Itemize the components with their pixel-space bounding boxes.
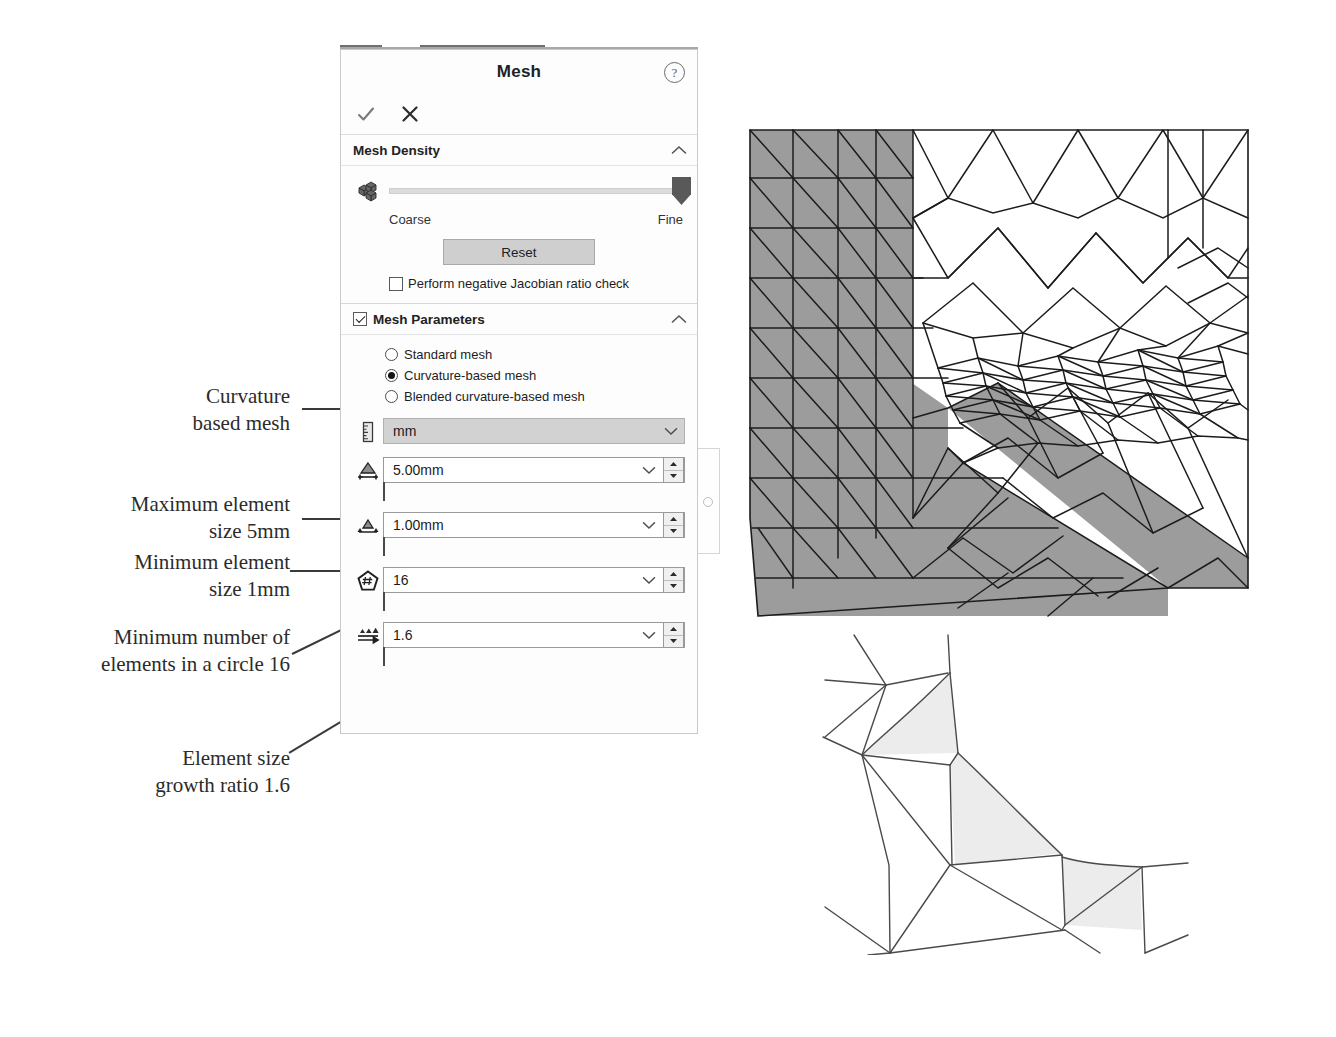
max-element-size-spinner[interactable] [663, 457, 684, 483]
section-title-mesh-parameters: Mesh Parameters [373, 312, 485, 327]
chevron-up-icon[interactable] [671, 145, 687, 155]
field-row-growth-ratio: 1.6 [353, 622, 685, 666]
min-element-size-stack: 1.00mm [383, 512, 685, 556]
panel-header: Mesh ? [341, 50, 697, 94]
annotation-element-growth-ratio: Element size growth ratio 1.6 [10, 745, 290, 800]
ruler-icon [353, 418, 383, 446]
radio-row-standard-mesh[interactable]: Standard mesh [385, 347, 697, 362]
units-value: mm [384, 423, 658, 439]
triangle-up-icon[interactable] [664, 568, 683, 581]
growth-ratio-value: 1.6 [384, 627, 636, 643]
chevron-down-icon[interactable] [636, 521, 662, 530]
field-row-units: mm [353, 418, 685, 446]
section-header-mesh-density[interactable]: Mesh Density [341, 135, 697, 166]
field-row-min-element-size: 1.00mm [353, 512, 685, 556]
radio-label-standard-mesh: Standard mesh [404, 347, 492, 362]
triangle-up-icon[interactable] [664, 623, 683, 636]
mesh-cubes-icon [353, 179, 381, 203]
growth-ratio-icon [353, 622, 383, 650]
triangle-down-icon[interactable] [664, 581, 683, 593]
section-body-mesh-density: Coarse Fine Reset Perform negative Jacob… [341, 166, 697, 303]
slider-scale-labels: Coarse Fine [389, 212, 683, 227]
max-element-size-value: 5.00mm [384, 462, 636, 478]
elements-in-circle-stack: 16 [383, 567, 685, 611]
chevron-down-icon[interactable] [636, 631, 662, 640]
panel-side-tab[interactable] [697, 448, 720, 554]
units-field-stack: mm [383, 418, 685, 444]
slider-thumb[interactable] [672, 177, 691, 205]
min-element-size-icon [353, 512, 383, 540]
max-element-size-icon [353, 457, 383, 485]
triangle-down-icon[interactable] [664, 471, 683, 483]
max-element-size-input[interactable]: 5.00mm [383, 457, 685, 483]
radio-row-blended-curvature-based-mesh[interactable]: Blended curvature-based mesh [385, 389, 697, 404]
mesh-parameter-fields: mm 5.00mm [341, 408, 697, 681]
max-element-size-stack: 5.00mm [383, 457, 685, 501]
mesh-parameters-checkbox[interactable] [353, 312, 367, 326]
min-element-size-spinner[interactable] [663, 512, 684, 538]
elements-in-circle-spinner[interactable] [663, 567, 684, 593]
min-element-size-input[interactable]: 1.00mm [383, 512, 685, 538]
panel-action-bar [341, 94, 697, 135]
radio-standard-mesh[interactable] [385, 348, 398, 361]
slider-label-fine: Fine [658, 212, 683, 227]
panel-pin-icon [703, 497, 713, 507]
growth-ratio-input[interactable]: 1.6 [383, 622, 685, 648]
growth-ratio-stack: 1.6 [383, 622, 685, 666]
jacobian-check-row[interactable]: Perform negative Jacobian ratio check [389, 276, 685, 291]
radio-label-curvature-based-mesh: Curvature-based mesh [404, 368, 536, 383]
elements-in-circle-tick-bar [383, 592, 385, 611]
triangle-up-icon[interactable] [664, 513, 683, 526]
mesh-density-slider[interactable] [389, 188, 683, 194]
section-header-mesh-parameters[interactable]: Mesh Parameters [341, 303, 697, 335]
annotation-minimum-element-size: Minimum element size 1mm [10, 549, 290, 604]
triangle-down-icon[interactable] [664, 526, 683, 538]
fea-mesh-3d-view [748, 118, 1268, 618]
mesh-property-manager: Mesh ? Mesh Density [340, 49, 698, 734]
radio-curvature-based-mesh[interactable] [385, 369, 398, 382]
jacobian-checkbox[interactable] [389, 277, 403, 291]
chevron-down-icon[interactable] [658, 427, 684, 436]
elements-in-circle-icon [353, 567, 383, 595]
units-select[interactable]: mm [383, 418, 685, 444]
close-icon[interactable] [399, 103, 421, 125]
mesh-type-radio-group: Standard mesh Curvature-based mesh Blend… [341, 335, 697, 408]
radio-row-curvature-based-mesh[interactable]: Curvature-based mesh [385, 368, 697, 383]
max-element-size-tick-bar [383, 482, 385, 501]
annotation-min-elements-in-circle: Minimum number of elements in a circle 1… [10, 624, 290, 679]
mesh-density-slider-row [353, 174, 685, 208]
page-title: Mesh [497, 62, 541, 82]
annotation-maximum-element-size: Maximum element size 5mm [10, 491, 290, 546]
radio-blended-curvature-based-mesh[interactable] [385, 390, 398, 403]
min-element-size-tick-bar [383, 537, 385, 556]
elements-in-circle-input[interactable]: 16 [383, 567, 685, 593]
slider-label-coarse: Coarse [389, 212, 431, 227]
growth-ratio-tick-bar [383, 647, 385, 666]
reset-button[interactable]: Reset [443, 239, 595, 265]
checkmark-icon[interactable] [355, 103, 377, 125]
chevron-up-icon[interactable] [671, 314, 687, 324]
field-row-max-element-size: 5.00mm [353, 457, 685, 501]
min-element-size-value: 1.00mm [384, 517, 636, 533]
elements-in-circle-value: 16 [384, 572, 636, 588]
fea-mesh-closeup-view [790, 625, 1190, 955]
chevron-down-icon[interactable] [636, 576, 662, 585]
reset-button-wrap: Reset [353, 239, 685, 265]
chevron-down-icon[interactable] [636, 466, 662, 475]
triangle-up-icon[interactable] [664, 458, 683, 471]
help-icon[interactable]: ? [664, 62, 685, 83]
field-row-elements-in-circle: 16 [353, 567, 685, 611]
jacobian-checkbox-label: Perform negative Jacobian ratio check [408, 276, 629, 291]
annotation-curvature-based-mesh: Curvature based mesh [10, 383, 290, 438]
section-title-mesh-density: Mesh Density [353, 143, 440, 158]
growth-ratio-spinner[interactable] [663, 622, 684, 648]
radio-label-blended-curvature-based-mesh: Blended curvature-based mesh [404, 389, 585, 404]
triangle-down-icon[interactable] [664, 636, 683, 648]
